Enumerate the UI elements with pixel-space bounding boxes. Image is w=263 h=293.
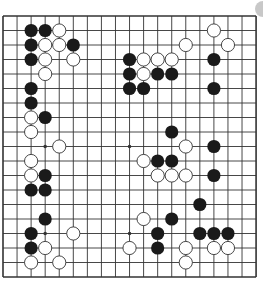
white-stone[interactable] <box>165 53 178 66</box>
white-stone[interactable] <box>179 169 192 182</box>
white-stone[interactable] <box>25 125 38 138</box>
black-stone[interactable] <box>25 53 38 66</box>
white-stone[interactable] <box>53 38 66 51</box>
white-stone[interactable] <box>151 169 164 182</box>
star-point <box>128 145 132 149</box>
black-stone[interactable] <box>165 67 178 80</box>
white-stone[interactable] <box>39 38 52 51</box>
black-stone[interactable] <box>207 82 220 95</box>
black-stone[interactable] <box>165 125 178 138</box>
white-stone[interactable] <box>67 227 80 240</box>
black-stone[interactable] <box>207 227 220 240</box>
black-stone[interactable] <box>193 198 206 211</box>
white-stone[interactable] <box>221 38 234 51</box>
white-stone[interactable] <box>221 241 234 254</box>
white-stone[interactable] <box>39 67 52 80</box>
star-point <box>43 232 47 236</box>
go-board[interactable] <box>0 0 263 293</box>
star-point <box>43 145 47 149</box>
white-stone[interactable] <box>179 140 192 153</box>
white-stone[interactable] <box>207 241 220 254</box>
black-stone[interactable] <box>151 154 164 167</box>
black-stone[interactable] <box>39 212 52 225</box>
black-stone[interactable] <box>123 53 136 66</box>
black-stone[interactable] <box>39 169 52 182</box>
black-stone[interactable] <box>151 241 164 254</box>
black-stone[interactable] <box>39 111 52 124</box>
white-stone[interactable] <box>137 154 150 167</box>
black-stone[interactable] <box>165 212 178 225</box>
white-stone[interactable] <box>137 212 150 225</box>
white-stone[interactable] <box>151 53 164 66</box>
black-stone[interactable] <box>67 38 80 51</box>
white-stone[interactable] <box>53 256 66 269</box>
white-stone[interactable] <box>179 256 192 269</box>
white-stone[interactable] <box>67 53 80 66</box>
black-stone[interactable] <box>25 96 38 109</box>
white-stone[interactable] <box>123 241 136 254</box>
star-point <box>128 232 132 236</box>
black-stone[interactable] <box>207 53 220 66</box>
white-stone[interactable] <box>39 53 52 66</box>
white-stone[interactable] <box>53 24 66 37</box>
black-stone[interactable] <box>193 227 206 240</box>
white-stone[interactable] <box>137 53 150 66</box>
black-stone[interactable] <box>25 38 38 51</box>
white-stone[interactable] <box>179 241 192 254</box>
black-stone[interactable] <box>207 140 220 153</box>
black-stone[interactable] <box>123 82 136 95</box>
white-stone[interactable] <box>165 169 178 182</box>
white-stone[interactable] <box>207 24 220 37</box>
black-stone[interactable] <box>123 67 136 80</box>
white-stone[interactable] <box>25 111 38 124</box>
black-stone[interactable] <box>25 183 38 196</box>
black-stone[interactable] <box>207 169 220 182</box>
white-stone[interactable] <box>25 169 38 182</box>
black-stone[interactable] <box>165 154 178 167</box>
white-stone[interactable] <box>137 67 150 80</box>
black-stone[interactable] <box>25 24 38 37</box>
black-stone[interactable] <box>39 24 52 37</box>
black-stone[interactable] <box>25 82 38 95</box>
black-stone[interactable] <box>151 227 164 240</box>
black-stone[interactable] <box>25 227 38 240</box>
white-stone[interactable] <box>53 140 66 153</box>
black-stone[interactable] <box>39 183 52 196</box>
black-stone[interactable] <box>25 241 38 254</box>
black-stone[interactable] <box>151 67 164 80</box>
white-stone[interactable] <box>179 38 192 51</box>
black-stone[interactable] <box>137 82 150 95</box>
white-stone[interactable] <box>25 154 38 167</box>
black-stone[interactable] <box>221 227 234 240</box>
white-stone[interactable] <box>25 256 38 269</box>
white-stone[interactable] <box>39 241 52 254</box>
